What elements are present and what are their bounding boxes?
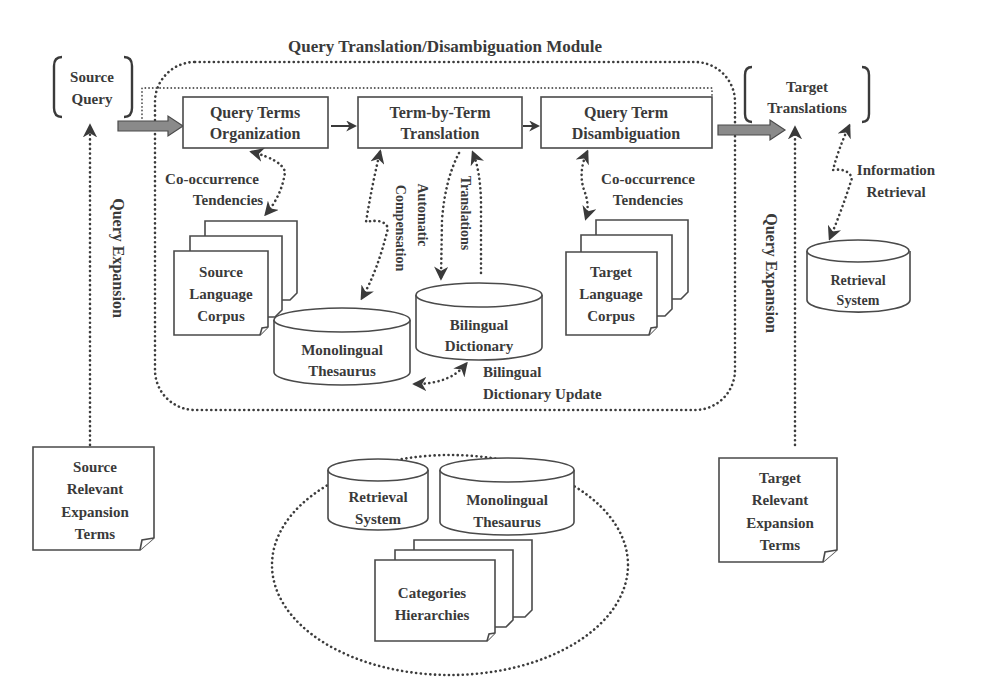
svg-text:Co-occurrence: Co-occurrence: [601, 171, 695, 187]
svg-text:Relevant: Relevant: [67, 481, 124, 497]
page-fold-icon: [260, 327, 268, 335]
svg-text:Automatic: Automatic: [415, 184, 430, 247]
svg-text:Language: Language: [189, 286, 253, 302]
svg-text:Query Term: Query Term: [584, 104, 669, 122]
bilingual-dictionary-db: Bilingual Dictionary: [416, 283, 542, 360]
svg-text:System: System: [355, 511, 401, 527]
right-bracket-icon: [124, 57, 132, 117]
target-language-corpus: Target Language Corpus: [566, 220, 688, 335]
svg-text:Bilingual: Bilingual: [450, 317, 508, 333]
svg-text:Categories: Categories: [398, 585, 466, 601]
box-query-term-disambiguation: Query Term Disambiguation: [541, 97, 712, 148]
svg-text:Target: Target: [590, 264, 632, 280]
retrieval-system-db: Retrieval System: [807, 240, 910, 312]
svg-text:Expansion: Expansion: [61, 504, 129, 520]
left-bracket-icon: [745, 67, 752, 122]
svg-text:Monolingual: Monolingual: [466, 492, 548, 508]
svg-text:Tendencies: Tendencies: [613, 192, 683, 208]
svg-text:Query Expansion: Query Expansion: [762, 213, 780, 333]
svg-text:Target: Target: [786, 79, 828, 95]
svg-text:Disambiguation: Disambiguation: [572, 125, 681, 143]
svg-text:Expansion: Expansion: [746, 515, 814, 531]
svg-text:Retrieval: Retrieval: [830, 273, 885, 288]
source-query: Source Query: [54, 57, 132, 117]
svg-text:Compensation: Compensation: [393, 185, 408, 272]
automatic-link: [441, 153, 459, 278]
monolingual-thesaurus-db: Monolingual Thesaurus: [274, 308, 410, 385]
page-fold-icon: [487, 633, 495, 641]
svg-text:Terms: Terms: [760, 537, 800, 553]
svg-text:Tendencies: Tendencies: [193, 192, 263, 208]
module-title: Query Translation/Disambiguation Module: [288, 37, 602, 56]
resource-monolingual-thesaurus-db: Monolingual Thesaurus: [440, 458, 574, 535]
svg-text:Dictionary Update: Dictionary Update: [483, 386, 602, 402]
svg-text:Retrieval: Retrieval: [866, 184, 925, 200]
bilingual-update-link: [415, 364, 466, 384]
svg-text:Monolingual: Monolingual: [301, 342, 383, 358]
svg-text:Corpus: Corpus: [197, 308, 245, 324]
box-query-terms-organization: Query Terms Organization: [183, 97, 328, 148]
source-expansion-terms: Source Relevant Expansion Terms: [33, 447, 154, 550]
svg-text:Query Expansion: Query Expansion: [109, 198, 127, 318]
svg-text:Query: Query: [72, 91, 113, 107]
svg-text:Retrieval: Retrieval: [348, 489, 407, 505]
compensation-link: [362, 152, 388, 298]
right-bracket-icon: [862, 67, 869, 122]
page-fold-icon: [649, 327, 657, 335]
svg-text:Source: Source: [199, 264, 243, 280]
svg-text:Query Terms: Query Terms: [210, 104, 300, 122]
cooccurrence-link-right: [582, 152, 588, 218]
thick-arrow-in: [118, 116, 183, 136]
svg-text:Thesaurus: Thesaurus: [308, 363, 376, 379]
svg-text:Dictionary: Dictionary: [445, 338, 514, 354]
svg-text:Source: Source: [70, 69, 114, 85]
svg-text:Translations: Translations: [767, 100, 847, 116]
svg-text:Bilingual: Bilingual: [483, 364, 541, 380]
svg-text:System: System: [837, 293, 880, 308]
svg-text:Target: Target: [759, 470, 801, 486]
diagram-canvas: Query Translation/Disambiguation Module …: [0, 0, 985, 692]
svg-text:Term-by-Term: Term-by-Term: [389, 104, 491, 122]
svg-text:Relevant: Relevant: [752, 492, 809, 508]
target-expansion-terms: Target Relevant Expansion Terms: [719, 458, 837, 562]
svg-text:Hierarchies: Hierarchies: [395, 607, 470, 623]
svg-text:Source: Source: [73, 459, 117, 475]
left-bracket-icon: [54, 57, 62, 117]
svg-text:Organization: Organization: [210, 125, 301, 143]
svg-text:Corpus: Corpus: [587, 308, 635, 324]
information-retrieval-link: [830, 126, 852, 238]
svg-text:Co-occurrence: Co-occurrence: [165, 171, 259, 187]
svg-text:Language: Language: [579, 286, 643, 302]
svg-text:Translations: Translations: [458, 176, 473, 251]
resource-retrieval-system-db: Retrieval System: [328, 459, 428, 530]
svg-text:Translation: Translation: [401, 125, 480, 142]
svg-text:Information: Information: [857, 162, 936, 178]
svg-text:Thesaurus: Thesaurus: [473, 514, 541, 530]
translations-link: [473, 153, 481, 273]
svg-text:Terms: Terms: [75, 526, 115, 542]
target-translations: Target Translations: [745, 67, 869, 122]
resource-categories-hierarchies: Categories Hierarchies: [375, 540, 532, 641]
box-term-by-term-translation: Term-by-Term Translation: [358, 97, 522, 148]
